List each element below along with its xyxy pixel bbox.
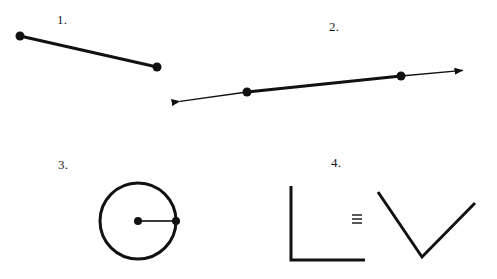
figure-4-congruent-angles (291, 186, 475, 260)
figure-1-label: 1. (57, 12, 67, 28)
circle-center-dot (134, 217, 142, 225)
congruence-symbol (352, 215, 362, 223)
figure-3-circle-with-radius (100, 183, 180, 259)
segment-endpoint-right-dot (153, 63, 162, 72)
arrow-ray-left (180, 92, 247, 101)
arrow-ray-right (401, 70, 463, 76)
line-point-left-dot (243, 88, 252, 97)
v-angle-shape (378, 192, 475, 257)
figure-canvas (0, 0, 497, 279)
figure-2-label: 2. (329, 19, 339, 35)
figure-4-label: 4. (331, 155, 341, 171)
figure-3-label: 3. (58, 157, 68, 173)
worksheet-page: 1. 2. 3. 4. (0, 0, 497, 279)
figure-2-line-with-arrows (180, 70, 463, 101)
segment-endpoint-left-dot (16, 32, 25, 41)
radius-endpoint-dot (172, 217, 180, 225)
emphasized-segment (247, 76, 401, 92)
line-point-right-dot (397, 72, 406, 81)
figure-1-line-segment (16, 32, 162, 72)
segment-line (20, 36, 157, 67)
